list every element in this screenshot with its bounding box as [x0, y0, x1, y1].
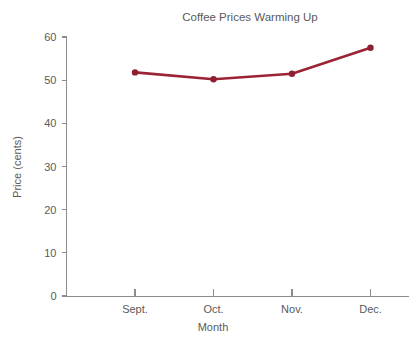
y-axis-title: Price (cents)	[11, 136, 23, 198]
y-tick-label: 0	[50, 290, 56, 302]
x-tick-label: Dec.	[359, 303, 382, 315]
y-tick-label: 50	[44, 74, 56, 86]
line-chart: Coffee Prices Warming Up 0102030405060 P…	[0, 0, 420, 352]
data-point-marker	[210, 76, 216, 82]
y-tick-label: 60	[44, 31, 56, 43]
y-tick-label: 20	[44, 204, 56, 216]
data-point-marker	[367, 45, 373, 51]
data-point-marker	[289, 70, 295, 76]
y-tick-label: 40	[44, 117, 56, 129]
chart-container: Coffee Prices Warming Up 0102030405060 P…	[0, 0, 420, 352]
x-tick-label: Nov.	[281, 303, 303, 315]
chart-title: Coffee Prices Warming Up	[182, 11, 318, 23]
x-tick-label: Sept.	[122, 303, 148, 315]
y-tick-label: 10	[44, 247, 56, 259]
y-tick-label: 30	[44, 161, 56, 173]
x-axis-title: Month	[198, 321, 229, 333]
x-tick-label: Oct.	[203, 303, 223, 315]
data-point-marker	[132, 69, 138, 75]
